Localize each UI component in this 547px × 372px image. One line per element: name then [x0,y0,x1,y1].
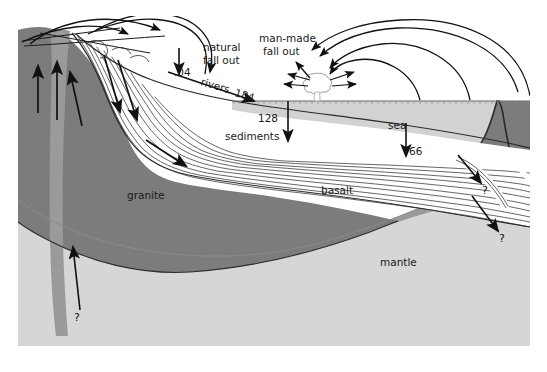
label-manmade-fallout-line2: fall out [263,45,300,57]
label-flux-fallout: .04 [174,66,191,78]
label-manmade-fallout-line1: man-made [259,32,316,44]
label-unknown-mantle-upwelling: ? [74,311,80,324]
label-basalt: basalt [321,184,353,196]
label-unknown-subduction-lower: ? [499,232,505,245]
label-unknown-subduction-upper: ? [482,184,488,197]
label-flux-seafloor: 66 [409,145,423,157]
label-natural-fallout-line2: fall out [203,54,240,66]
label-flux-sediments: 128 [258,112,278,124]
label-granite: granite [127,189,165,201]
diagram-canvas: natural fall out man-made fall out .04 r… [0,0,547,372]
label-natural-fallout-line1: natural [203,41,241,53]
label-sediments: sediments [225,130,279,142]
label-mantle: mantle [380,256,417,268]
geological-cross-section-figure: natural fall out man-made fall out .04 r… [0,0,547,372]
label-sea: sea [388,119,406,131]
